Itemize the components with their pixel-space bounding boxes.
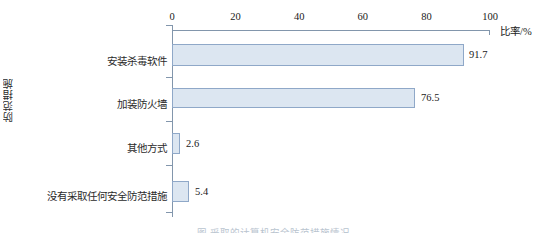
figure-caption: 图 采取的计算机安全防范措施情况 [0, 225, 547, 233]
bar-value-2: 2.6 [186, 138, 199, 149]
category-label-3: 没有采取任何安全防范措施 [0, 188, 167, 203]
category-tick-2 [166, 121, 172, 122]
bar-value-3: 5.4 [195, 186, 208, 197]
bar-value-1: 76.5 [421, 92, 439, 103]
category-tick-3 [166, 165, 172, 166]
category-tick-1 [166, 77, 172, 78]
x-tick-label-20: 20 [230, 11, 241, 22]
bar-value-0: 91.7 [469, 49, 487, 60]
category-tick-4 [166, 212, 172, 213]
category-label-0: 安装杀毒软件 [0, 53, 167, 68]
x-tick-label-40: 40 [294, 11, 305, 22]
category-tick-0 [166, 25, 172, 26]
bar-0 [172, 44, 464, 66]
x-tick-label-0: 0 [169, 11, 174, 22]
x-axis-unit-label: 比率/% [500, 23, 532, 38]
chart-figure: 防范措施 0 20 40 60 80 100 比率/% 安装杀毒软件 91.7 … [0, 0, 547, 233]
bar-1 [172, 88, 415, 108]
x-tick-label-60: 60 [358, 11, 369, 22]
category-label-2: 其他方式 [0, 140, 167, 155]
x-tick-label-80: 80 [421, 11, 432, 22]
value-axis-end-cap [489, 30, 490, 35]
bar-3 [172, 181, 189, 202]
bar-2 [172, 133, 180, 154]
x-tick-label-100: 100 [482, 11, 498, 22]
value-axis-line [172, 30, 490, 31]
category-label-1: 加装防火墙 [0, 96, 167, 111]
